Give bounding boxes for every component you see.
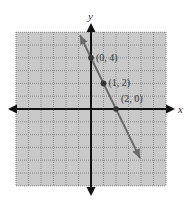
y-axis-up-arrow-icon [87, 23, 96, 32]
y-axis-label: y [87, 10, 93, 22]
data-point [101, 81, 107, 87]
x-axis-label: x [177, 103, 183, 115]
data-point [88, 55, 94, 61]
point-label: (2, 0) [121, 93, 143, 105]
point-label: (1, 2) [109, 77, 131, 89]
y-axis-down-arrow-icon [87, 187, 96, 196]
x-axis-left-arrow-icon [8, 105, 17, 114]
data-point [113, 106, 119, 112]
x-axis-right-arrow-icon [166, 105, 175, 114]
coordinate-plane: x y (0, 4)(1, 2)(2, 0) [0, 0, 188, 204]
point-label: (0, 4) [96, 52, 118, 64]
